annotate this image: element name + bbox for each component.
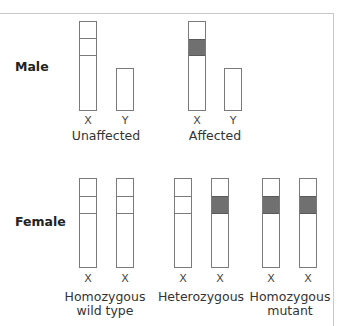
chromosome-letter: X [79,272,97,285]
band-boundary [117,213,133,214]
band-boundary [80,213,96,214]
chromosome-letter: Y [224,114,242,127]
row-label-male: Male [15,59,49,74]
band-boundary [80,38,96,39]
row-label-female: Female [15,214,66,229]
band-boundary [117,196,133,197]
caption-homozygous-wild-type: Homozygous wild type [60,290,150,318]
band-boundary [80,196,96,197]
x-chromosome-mutant [299,178,317,268]
caption-line: Homozygous [60,290,150,304]
mutant-band [212,196,228,214]
mutant-band [263,196,279,214]
band-boundary [80,55,96,56]
caption-line: mutant [245,304,335,318]
caption-line: Homozygous [245,290,335,304]
x-chromosome-normal [116,178,134,268]
chromosome-letter: X [188,114,206,127]
band-boundary [175,213,191,214]
chromosome-letter: X [262,272,280,285]
caption-heterozygous: Heterozygous [155,290,247,304]
caption-unaffected: Unaffected [66,129,146,143]
chromosome-letter: X [299,272,317,285]
x-chromosome-normal [174,178,192,268]
chromosome-letter: X [211,272,229,285]
frame-top-border [0,13,334,14]
caption-line: wild type [60,304,150,318]
band-boundary [175,196,191,197]
chromosome-letter: X [174,272,192,285]
chromosome-letter: Y [116,114,134,127]
frame-right-border [333,13,334,326]
x-chromosome-mutant [188,21,206,111]
caption-affected: Affected [175,129,255,143]
y-chromosome [224,68,242,111]
caption-line: Heterozygous [155,290,247,304]
caption-homozygous-mutant: Homozygous mutant [245,290,335,318]
mutant-band [300,196,316,214]
x-chromosome-normal [79,21,97,111]
y-chromosome [116,68,134,111]
x-chromosome-mutant [262,178,280,268]
chromosome-letter: X [79,114,97,127]
chromosome-letter: X [116,272,134,285]
mutant-band [189,39,205,56]
x-chromosome-normal [79,178,97,268]
x-chromosome-mutant [211,178,229,268]
